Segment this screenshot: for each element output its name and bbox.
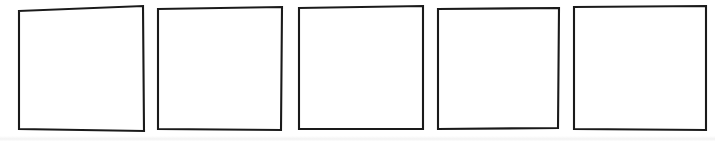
squares-row bbox=[0, 0, 715, 141]
square-3[interactable] bbox=[299, 6, 423, 129]
square-1[interactable] bbox=[19, 6, 144, 131]
square-4[interactable] bbox=[438, 8, 559, 129]
square-5[interactable] bbox=[574, 6, 706, 130]
square-2[interactable] bbox=[158, 7, 282, 130]
figure-canvas bbox=[0, 0, 715, 141]
